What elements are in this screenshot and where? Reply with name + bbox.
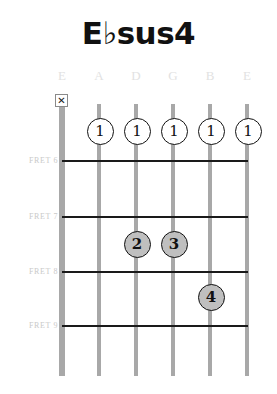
finger-position-dot: 3: [161, 231, 188, 258]
fret-line: [62, 271, 248, 273]
finger-position-dot: 2: [124, 231, 151, 258]
fret-number-label: FRET 7: [8, 212, 58, 222]
guitar-string: [245, 104, 249, 376]
fret-line: [62, 216, 248, 218]
guitar-string: [97, 104, 101, 376]
guitar-string: [59, 104, 65, 376]
finger-position-dot: 4: [198, 284, 225, 311]
fretboard: FRET 6FRET 7FRET 8FRET 9✕11111234: [0, 0, 277, 394]
finger-position-dot: 1: [87, 118, 114, 145]
fret-number-label: FRET 6: [8, 156, 58, 166]
finger-position-dot: 1: [235, 118, 262, 145]
fret-number-label: FRET 8: [8, 267, 58, 277]
finger-position-dot: 1: [161, 118, 188, 145]
finger-position-dot: 1: [198, 118, 225, 145]
chord-diagram-page: E♭sus4 EADGBE FRET 6FRET 7FRET 8FRET 9✕1…: [0, 0, 277, 394]
finger-position-dot: 1: [124, 118, 151, 145]
fret-line: [62, 325, 248, 327]
muted-string-x-icon: ✕: [55, 94, 68, 107]
guitar-string: [208, 104, 212, 376]
fret-line: [62, 160, 248, 162]
fret-number-label: FRET 9: [8, 321, 58, 331]
